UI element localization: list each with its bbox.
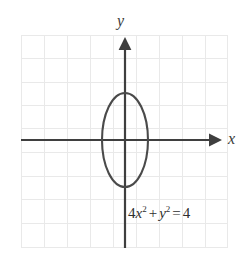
equation-right-side: 4 xyxy=(183,205,191,221)
y-axis-label: y xyxy=(117,13,124,29)
coordinate-plane-svg xyxy=(0,0,246,274)
equation-equals-sign: = xyxy=(170,205,182,221)
equation-plus-sign: + xyxy=(147,205,159,221)
equation-exponent-x: 2 xyxy=(142,204,147,214)
graph-figure: y x 4x2+y2=4 xyxy=(0,0,246,274)
equation-var-y: y xyxy=(159,205,166,221)
equation-coefficient-x: 4 xyxy=(128,205,136,221)
equation-annotation: 4x2+y2=4 xyxy=(128,206,190,221)
x-axis-label: x xyxy=(228,131,235,147)
